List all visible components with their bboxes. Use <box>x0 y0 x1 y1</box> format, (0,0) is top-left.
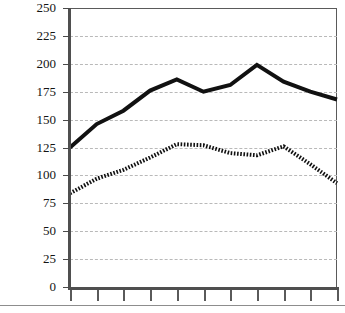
y-axis-tick-label: 225 <box>6 29 56 42</box>
series-line-dashed-series <box>70 144 337 193</box>
x-axis-tick-mark <box>123 290 125 301</box>
y-axis-tick-label: 75 <box>6 196 56 209</box>
line-chart: 2502252001751501251007550250 <box>0 0 345 313</box>
y-axis-tick-label: 50 <box>6 224 56 237</box>
y-axis-tick-label: 0 <box>6 280 56 293</box>
y-axis-tick-label: 200 <box>6 57 56 70</box>
series-line-solid-series <box>70 65 337 148</box>
series-layer <box>70 8 337 287</box>
y-axis-tick-mark <box>63 231 69 232</box>
x-axis-tick-mark <box>150 290 152 301</box>
x-axis-tick-mark <box>257 290 259 301</box>
y-axis-tick-mark <box>63 287 69 288</box>
y-axis-tick-mark <box>63 120 69 121</box>
y-axis-tick-mark <box>63 92 69 93</box>
x-axis-tick-mark <box>70 290 72 301</box>
y-axis-tick-label: 25 <box>6 252 56 265</box>
x-axis-tick-mark <box>337 290 339 301</box>
y-axis-tick-label: 250 <box>6 1 56 14</box>
y-axis-tick-mark <box>63 148 69 149</box>
y-axis-tick-mark <box>63 175 69 176</box>
x-axis-tick-mark <box>284 290 286 301</box>
y-axis-tick-mark <box>63 64 69 65</box>
y-axis-tick-mark <box>63 203 69 204</box>
plot-area <box>70 8 337 287</box>
y-axis-tick-label: 150 <box>6 113 56 126</box>
y-axis-labels: 2502252001751501251007550250 <box>0 0 56 313</box>
y-axis-tick-label: 100 <box>6 168 56 181</box>
y-axis-tick-mark <box>63 8 69 9</box>
x-axis-tick-mark <box>177 290 179 301</box>
y-axis-line <box>68 8 71 290</box>
footer-rule <box>0 305 345 306</box>
x-axis-tick-mark <box>97 290 99 301</box>
x-axis-tick-mark <box>230 290 232 301</box>
x-axis-tick-mark <box>310 290 312 301</box>
x-axis-tick-mark <box>204 290 206 301</box>
y-axis-tick-mark <box>63 259 69 260</box>
y-axis-tick-label: 175 <box>6 85 56 98</box>
y-axis-tick-label: 125 <box>6 141 56 154</box>
y-axis-tick-mark <box>63 36 69 37</box>
